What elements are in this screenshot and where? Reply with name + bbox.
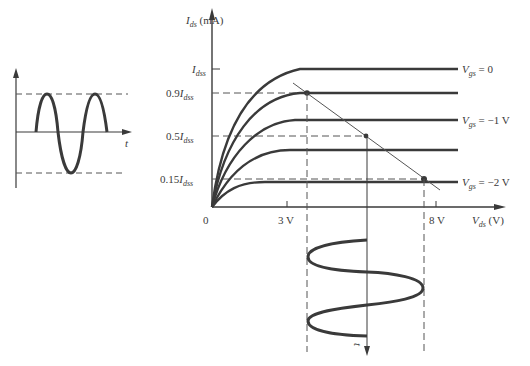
label-idss: Idss xyxy=(191,63,206,78)
characteristic-plot: Ids (mA) Idss 0.9Idss 0.5Idss 0.15Idss 0… xyxy=(160,8,510,229)
origin-label: 0 xyxy=(203,214,209,226)
input-t-axis-arrow-icon xyxy=(122,129,132,135)
curve-vgs-0 xyxy=(212,69,458,207)
output-t-label: t xyxy=(352,343,364,347)
tick-label-8v: 8 V xyxy=(429,214,445,226)
label-0.15idss: 0.15Idss xyxy=(160,173,193,188)
label-0.9idss: 0.9Idss xyxy=(166,87,194,102)
q-point xyxy=(364,134,369,139)
output-signal-plot: t xyxy=(307,93,424,356)
curve-vgs-neg1 xyxy=(212,120,458,207)
output-sine-wave xyxy=(308,240,423,336)
output-time-axis-arrow-icon xyxy=(364,346,370,356)
ids-axis-label: Ids (mA) xyxy=(185,14,224,29)
input-sine-wave xyxy=(36,94,107,173)
curve-label-vgs-neg2: Vgs = −2 V xyxy=(462,176,510,191)
curve-label-vgs-0: Vgs = 0 xyxy=(462,63,494,78)
input-signal-plot: t xyxy=(13,68,132,188)
label-0.5idss: 0.5Idss xyxy=(166,130,194,145)
vds-axis-arrow-icon xyxy=(494,204,506,210)
input-y-axis-arrow-icon xyxy=(13,68,19,78)
curve-vgs-neg2 xyxy=(212,182,458,207)
tick-label-3v: 3 V xyxy=(278,214,294,226)
jfet-load-line-diagram: t Ids (mA) Idss 0.9Idss 0.5Idss xyxy=(0,0,530,366)
input-t-label: t xyxy=(125,137,129,149)
curve-label-vgs-neg1: Vgs = −1 V xyxy=(462,114,510,129)
vds-axis-label: Vds (V) xyxy=(472,214,504,229)
